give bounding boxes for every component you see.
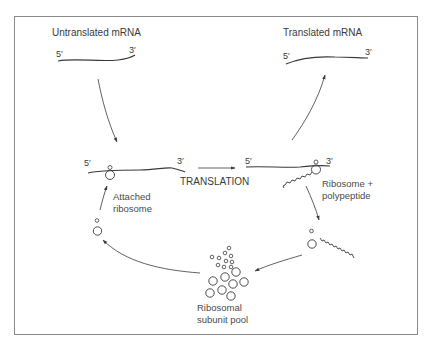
translated-five-prime: 5′ (283, 51, 290, 61)
untranslated-mrna-title: Untranslated mRNA (52, 27, 141, 39)
polypeptide-chain-icon (283, 172, 312, 188)
attached-mrna-strand (88, 168, 185, 173)
arrow-to-attached-ribosome (100, 186, 107, 210)
diagram-canvas (0, 0, 427, 341)
arrow-untranslated-to-attached (98, 79, 117, 142)
translating-mrna-strand (246, 166, 330, 168)
released-ribosome-icon (308, 229, 316, 248)
ribosome-polypeptide-label-line1: Ribosome + (322, 178, 373, 190)
translation-label: TRANSLATION (180, 176, 249, 188)
free-ribosome-icon (93, 219, 101, 236)
ribosome-polypeptide-label-line2: polypeptide (322, 190, 373, 202)
subunit-pool-label-line1: Ribosomal (197, 302, 248, 314)
released-polypeptide-icon (320, 238, 354, 258)
attached-ribosome-label: Attached ribosome (113, 191, 152, 214)
attached-ribosome-label-line1: Attached (113, 191, 152, 203)
ribosome-polypeptide-label: Ribosome + polypeptide (322, 178, 373, 201)
attached-three-prime: 3′ (177, 156, 184, 166)
subunit-pool-label-line2: subunit pool (197, 314, 248, 326)
arrow-to-subunit-pool (255, 255, 302, 271)
untranslated-mrna-strand (58, 55, 135, 61)
subunit-pool-label: Ribosomal subunit pool (197, 302, 248, 325)
attached-five-prime: 5′ (84, 158, 91, 168)
translating-three-prime: 3′ (326, 156, 333, 166)
arrow-to-released-ribosome (306, 186, 319, 220)
translating-ribosome-icon (312, 160, 321, 174)
untranslated-five-prime: 5′ (56, 49, 63, 59)
translating-five-prime: 5′ (245, 156, 252, 166)
ribosomal-subunit-pool-icon (206, 246, 248, 300)
attached-ribosome-label-line2: ribosome (113, 203, 152, 215)
untranslated-three-prime: 3′ (129, 45, 136, 55)
translated-mrna-strand (286, 57, 368, 64)
arrow-to-free-ribosome (103, 240, 200, 273)
translated-three-prime: 3′ (365, 47, 372, 57)
attached-ribosome-icon (106, 166, 115, 180)
translated-mrna-title: Translated mRNA (283, 27, 362, 39)
arrow-to-translated (292, 75, 325, 140)
